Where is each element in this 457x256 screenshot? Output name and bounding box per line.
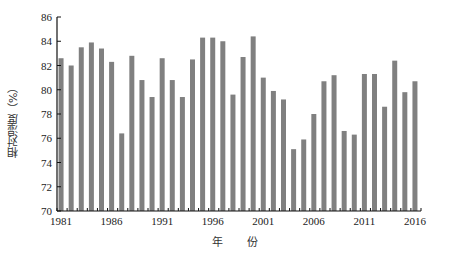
bar-1992	[170, 80, 175, 211]
y-tick-label: 82	[41, 60, 52, 72]
bar-1994	[190, 59, 195, 211]
bar-1999	[241, 57, 246, 211]
bar-2002	[271, 91, 276, 211]
x-tick-label: 2011	[354, 215, 376, 227]
bar-1995	[200, 38, 205, 211]
bar-1991	[160, 58, 165, 211]
x-tick-label: 1991	[151, 215, 173, 227]
bar-2012	[372, 74, 377, 211]
bar-2009	[342, 131, 347, 211]
y-tick-label: 80	[41, 84, 53, 96]
x-tick-label: 1981	[50, 215, 72, 227]
bar-2014	[392, 61, 397, 211]
y-tick-label: 76	[41, 132, 53, 144]
bar-1986	[109, 62, 114, 211]
bar-2004	[291, 149, 296, 211]
bar-1987	[119, 133, 124, 211]
y-tick-label: 84	[41, 35, 53, 47]
bar-2000	[251, 36, 256, 211]
bar-2003	[281, 99, 286, 211]
y-tick-label: 86	[41, 11, 53, 23]
bar-2013	[382, 107, 387, 211]
bar-1989	[139, 80, 144, 211]
bar-1998	[230, 95, 235, 211]
x-axis-label: 年 份	[200, 233, 280, 249]
x-tick-label: 2001	[252, 215, 274, 227]
y-axis-label: 相对湿度（%）	[6, 60, 26, 180]
bar-2016	[412, 81, 417, 211]
bar-2015	[402, 92, 407, 211]
bar-2010	[352, 135, 357, 211]
bar-1996	[210, 38, 215, 211]
x-tick-label: 1996	[202, 215, 225, 227]
x-tick-label: 2006	[303, 215, 326, 227]
bar-1993	[180, 97, 185, 211]
bar-1981	[59, 58, 64, 211]
bar-1997	[220, 41, 225, 211]
bar-2007	[321, 81, 326, 211]
bar-1982	[69, 66, 74, 212]
y-tick-label: 72	[41, 181, 52, 193]
bar-1984	[89, 42, 94, 211]
bar-2006	[311, 114, 316, 211]
bar-2005	[301, 139, 306, 211]
y-tick-label: 74	[41, 157, 53, 169]
bar-2001	[261, 78, 266, 211]
bars	[59, 36, 418, 211]
y-tick-label: 78	[41, 108, 53, 120]
bar-2011	[362, 74, 367, 211]
bar-1983	[79, 47, 84, 211]
x-tick-label: 2016	[404, 215, 427, 227]
bar-1990	[150, 97, 155, 211]
bar-1988	[129, 56, 134, 211]
bar-chart: 7072747678808284861981198619911996200120…	[0, 0, 457, 256]
bar-2008	[332, 75, 337, 211]
bar-1985	[99, 49, 104, 211]
x-tick-label: 1986	[101, 215, 124, 227]
